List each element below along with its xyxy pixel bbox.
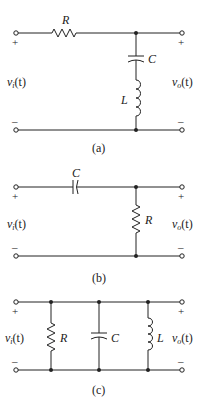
inductor-icon [148,318,153,350]
output-terminal-top [180,31,184,35]
resistor-icon [132,205,140,233]
output-terminal-bottom [180,254,184,258]
input-voltage-label: vi(t) [7,217,26,232]
resistor-icon [47,323,55,351]
input-terminal-top [14,185,18,189]
output-voltage-label: vo(t) [172,75,193,90]
output-minus: – [177,355,184,367]
output-minus: – [177,241,184,253]
capacitor-label: C [111,331,120,345]
inductor-label: L [156,331,164,345]
input-minus: – [11,115,18,127]
circuit-b: C R + + – – vi(t) vo(t) (b) [7,166,193,285]
input-terminal-bottom [14,368,18,372]
inductor-icon [136,80,141,116]
caption-c: (c) [92,383,105,397]
caption-a: (a) [92,141,105,155]
output-plus: + [178,190,184,202]
resistor-icon [52,29,76,37]
node-dot [97,368,101,372]
input-minus: – [11,355,18,367]
input-plus: + [12,190,18,202]
inductor-label: L [120,93,128,107]
output-terminal-top [180,300,184,304]
circuit-diagrams: R C L + + – – vi(t) vo(t) (a) C R + + – … [0,0,202,409]
input-terminal-top [14,31,18,35]
output-voltage-label: vo(t) [172,217,193,232]
node-dot [146,368,150,372]
input-terminal-top [14,300,18,304]
capacitor-label: C [148,52,157,66]
output-terminal-bottom [180,368,184,372]
output-plus: + [178,305,184,317]
capacitor-label: C [72,166,81,180]
input-plus: + [12,305,18,317]
output-plus: + [178,36,184,48]
resistor-label: R [144,213,153,227]
node-dot [134,254,138,258]
input-terminal-bottom [14,128,18,132]
output-minus: – [177,115,184,127]
input-terminal-bottom [14,254,18,258]
caption-b: (b) [92,271,106,285]
resistor-label: R [61,13,70,27]
node-dot [49,368,53,372]
circuit-c: R C L + + – – vi(t) vo(t) (c) [5,300,193,397]
output-voltage-label: vo(t) [172,331,193,346]
input-voltage-label: vi(t) [7,75,26,90]
resistor-label: R [59,331,68,345]
input-minus: – [11,241,18,253]
node-dot [134,128,138,132]
circuit-a: R C L + + – – vi(t) vo(t) (a) [7,13,193,155]
output-terminal-bottom [180,128,184,132]
input-voltage-label: vi(t) [5,331,24,346]
input-plus: + [12,36,18,48]
output-terminal-top [180,185,184,189]
